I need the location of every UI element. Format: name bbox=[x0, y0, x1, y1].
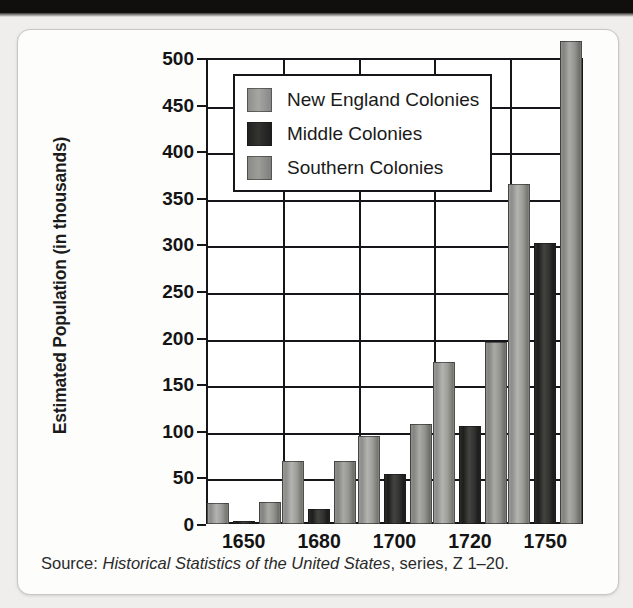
bar bbox=[410, 424, 432, 524]
y-tick-mark bbox=[197, 477, 206, 479]
legend-label: Middle Colonies bbox=[287, 123, 422, 145]
y-tick-label: 100 bbox=[114, 422, 194, 441]
source-note: Source: Historical Statistics of the Uni… bbox=[41, 554, 509, 573]
bar bbox=[334, 461, 356, 524]
bar bbox=[459, 426, 481, 524]
y-tick-label: 500 bbox=[114, 49, 194, 68]
y-tick-label: 50 bbox=[114, 468, 194, 487]
y-tick-label: 350 bbox=[114, 189, 194, 208]
bar-group bbox=[508, 58, 582, 524]
source-suffix: , series, Z 1–20. bbox=[390, 554, 508, 572]
bar bbox=[233, 521, 255, 524]
y-axis-title-bold: Estimated Population bbox=[50, 259, 70, 434]
y-tick-label: 150 bbox=[114, 375, 194, 394]
y-tick-label: 400 bbox=[114, 142, 194, 161]
figure-card: Estimated Population (in thousands) 0501… bbox=[17, 29, 619, 595]
page-background: Estimated Population (in thousands) 0501… bbox=[0, 0, 633, 608]
y-tick-mark bbox=[197, 524, 206, 526]
legend-swatch-icon bbox=[247, 122, 272, 146]
y-tick-label: 0 bbox=[114, 515, 194, 534]
y-tick-mark bbox=[197, 58, 206, 60]
bar bbox=[560, 41, 582, 524]
y-tick-mark bbox=[197, 105, 206, 107]
x-tick-label: 1750 bbox=[500, 530, 590, 553]
legend-swatch-icon bbox=[247, 156, 272, 180]
legend-swatch-icon bbox=[247, 88, 272, 112]
y-tick-mark bbox=[197, 151, 206, 153]
y-tick-label: 250 bbox=[114, 282, 194, 301]
scan-top-edge-band bbox=[0, 0, 633, 14]
y-tick-label: 200 bbox=[114, 329, 194, 348]
bar bbox=[259, 502, 281, 524]
y-tick-mark bbox=[197, 291, 206, 293]
y-tick-mark bbox=[197, 384, 206, 386]
bar-chart: Estimated Population (in thousands) 0501… bbox=[18, 30, 618, 594]
legend-item: Southern Colonies bbox=[247, 151, 490, 185]
y-tick-label: 300 bbox=[114, 235, 194, 254]
y-tick-mark bbox=[197, 338, 206, 340]
source-title: Historical Statistics of the United Stat… bbox=[102, 554, 390, 572]
legend-item: Middle Colonies bbox=[247, 117, 490, 151]
y-tick-mark bbox=[197, 431, 206, 433]
y-tick-mark bbox=[197, 198, 206, 200]
bar bbox=[207, 503, 229, 524]
bar bbox=[534, 243, 556, 524]
bar bbox=[485, 342, 507, 524]
bar bbox=[358, 436, 380, 524]
y-tick-label: 450 bbox=[114, 96, 194, 115]
bar bbox=[384, 474, 406, 524]
bar bbox=[282, 461, 304, 524]
source-prefix: Source: bbox=[41, 554, 98, 572]
y-tick-mark bbox=[197, 244, 206, 246]
chart-legend: New England ColoniesMiddle ColoniesSouth… bbox=[233, 74, 492, 192]
bar bbox=[508, 184, 530, 524]
y-axis-title-rest: (in thousands) bbox=[50, 137, 70, 259]
legend-item: New England Colonies bbox=[247, 83, 490, 117]
legend-label: New England Colonies bbox=[287, 89, 479, 111]
legend-label: Southern Colonies bbox=[287, 157, 443, 179]
bar bbox=[433, 362, 455, 524]
y-axis-title: Estimated Population (in thousands) bbox=[50, 76, 71, 496]
bar bbox=[308, 509, 330, 524]
